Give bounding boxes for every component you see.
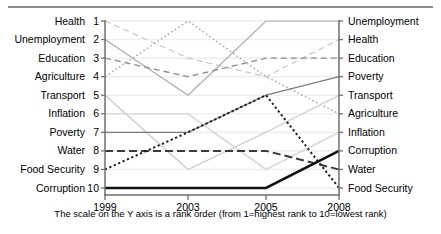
series-line-poverty: [105, 77, 339, 133]
right-axis-label-inflation: Inflation: [348, 127, 385, 137]
right-axis-label-agriculture: Agriculture: [348, 108, 398, 118]
y-axis-tick-label-10: 10: [87, 183, 99, 193]
right-axis-label-poverty: Poverty: [348, 71, 384, 81]
left-axis-label-agriculture: Agriculture: [35, 71, 85, 81]
series-line-agriculture: [105, 21, 339, 114]
series-line-inflation: [105, 114, 339, 170]
right-axis-label-food-security: Food Security: [348, 183, 413, 193]
left-axis-label-inflation: Inflation: [48, 108, 85, 118]
y-axis-tick-label-5: 5: [93, 90, 99, 100]
left-axis-label-corruption: Corruption: [36, 183, 85, 193]
left-axis-label-unemployment: Unemployment: [14, 34, 85, 44]
right-axis-label-corruption: Corruption: [348, 145, 397, 155]
y-axis-tick-label-6: 6: [93, 108, 99, 118]
left-axis-label-health: Health: [55, 16, 85, 26]
y-axis-tick-label-9: 9: [93, 164, 99, 174]
y-axis-tick-label-3: 3: [93, 53, 99, 63]
left-axis-label-food-security: Food Security: [20, 164, 85, 174]
left-axis-label-education: Education: [38, 53, 85, 63]
y-axis-tick-label-4: 4: [93, 71, 99, 81]
slope-rank-chart: HealthUnemploymentEducationAgricultureTr…: [0, 0, 441, 234]
left-axis-label-transport: Transport: [40, 90, 85, 100]
right-axis-label-transport: Transport: [348, 90, 393, 100]
y-axis-tick-label-1: 1: [93, 16, 99, 26]
y-axis-tick-label-2: 2: [93, 34, 99, 44]
series-line-food-security: [105, 95, 339, 188]
right-axis-label-water: Water: [348, 164, 376, 174]
left-axis-label-water: Water: [57, 145, 85, 155]
left-axis-label-poverty: Poverty: [49, 127, 85, 137]
y-axis-tick-label-7: 7: [93, 127, 99, 137]
right-axis-label-health: Health: [348, 34, 378, 44]
y-axis-tick-label-8: 8: [93, 145, 99, 155]
right-axis-label-unemployment: Unemployment: [348, 16, 419, 26]
right-axis-label-education: Education: [348, 53, 395, 63]
chart-caption: The scale on the Y axis is a rank order …: [0, 208, 441, 219]
series-line-education: [105, 58, 339, 77]
